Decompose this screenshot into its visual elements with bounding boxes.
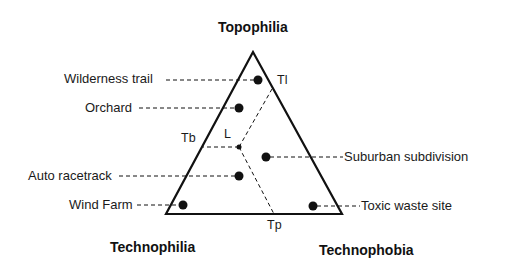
label-auto-racetrack: Auto racetrack	[28, 169, 112, 182]
label-wilderness-trail: Wilderness trail	[64, 72, 153, 85]
point-suburban-subdivision	[262, 153, 271, 162]
marker-center-l: L	[224, 128, 231, 141]
point-wind-farm	[179, 201, 188, 210]
vertex-technophilia: Technophilia	[110, 240, 195, 254]
point-wilderness-trail	[254, 76, 263, 85]
label-wind-farm: Wind Farm	[69, 198, 133, 211]
label-orchard: Orchard	[85, 101, 132, 114]
ternary-diagram	[0, 0, 506, 271]
point-toxic-waste-site	[309, 202, 318, 211]
divider-l-to-tl	[239, 89, 272, 147]
label-suburban-subdivision: Suburban subdivision	[344, 150, 468, 163]
vertex-technophobia: Technophobia	[319, 243, 414, 257]
vertex-topophilia: Topophilia	[218, 20, 288, 34]
marker-tp: Tp	[267, 219, 282, 232]
data-points	[179, 76, 318, 211]
point-auto-racetrack	[235, 172, 244, 181]
leader-lines	[119, 80, 360, 206]
marker-tl: Tl	[277, 74, 287, 87]
marker-tb: Tb	[181, 132, 196, 145]
point-orchard	[235, 104, 244, 113]
point-l-center	[237, 145, 242, 150]
label-toxic-waste-site: Toxic waste site	[361, 199, 452, 212]
